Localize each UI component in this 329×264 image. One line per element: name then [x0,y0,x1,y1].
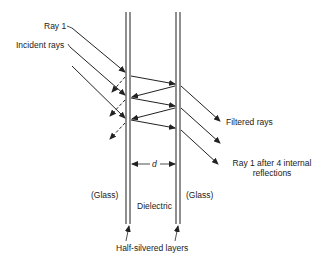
filtered-rays [181,86,220,164]
spacing-d-label: d [152,159,157,169]
ray1-label: Ray 1 [44,21,66,31]
incident-rays-label: Incident rays [16,40,64,50]
right-half-silvered-plate [176,12,180,224]
left-half-silvered-plate [126,12,130,224]
glass-left-label: (Glass) [91,190,118,200]
ray1-after-reflections-label: Ray 1 after 4 internal reflections [226,158,318,178]
incident-rays [70,28,125,118]
dielectric-label: Dielectric [137,201,172,211]
ray1-after-line1: Ray 1 after 4 internal [226,158,318,168]
filtered-rays-label: Filtered rays [226,117,273,127]
leader-lines [67,26,72,47]
internal-reflections [131,76,175,128]
glass-right-label: (Glass) [186,190,213,200]
half-silvered-label: Half-silvered layers [116,243,188,253]
reflected-rays-dashed [110,77,125,139]
half-silvered-pointers [126,226,178,241]
ray1-after-line2: reflections [226,168,318,178]
